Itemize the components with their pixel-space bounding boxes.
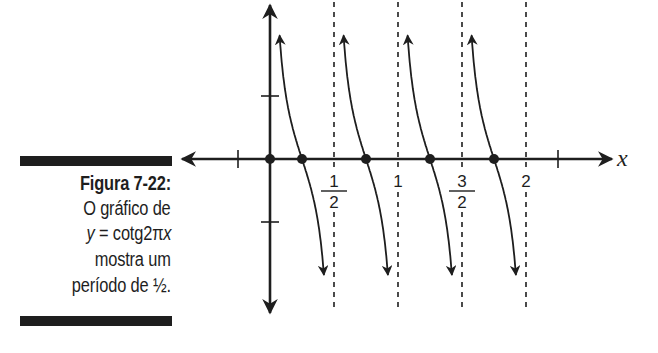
tick-label-numerator: 1 [329,172,338,191]
zero-point [425,154,435,164]
zero-point [489,154,499,164]
zero-point [297,154,307,164]
axes: x [182,5,628,313]
cotangent-graph: x 121322 [0,0,658,353]
x-tick-labels: 121322 [320,168,533,212]
tick-label: 1 [393,172,402,191]
zero-point [265,154,275,164]
zero-point [361,154,371,164]
tick-label-denominator: 2 [457,193,466,212]
tick-label-denominator: 2 [329,193,338,212]
tick-label-numerator: 3 [457,172,466,191]
tick-label: 2 [521,172,530,191]
x-axis-label: x [616,145,628,171]
